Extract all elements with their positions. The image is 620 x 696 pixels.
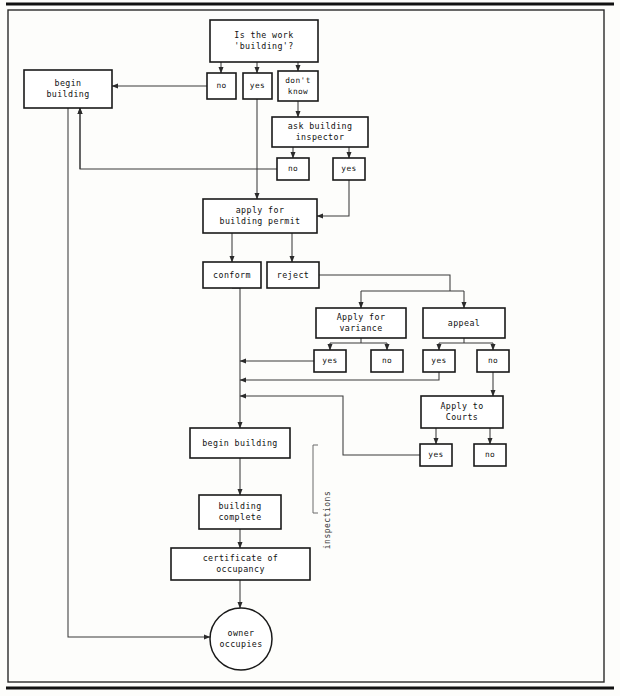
flowchart-page: Is the work'building'?beginbuildingnoyes… (0, 0, 620, 696)
node-label-line: yes (428, 450, 443, 459)
node-courts-yes[interactable]: yes (420, 444, 452, 466)
node-ask-building-inspector[interactable]: ask buildinginspector (272, 117, 368, 147)
node-label-line: no (488, 356, 498, 365)
node-variance-no[interactable]: no (371, 350, 403, 372)
connector-yes2-to-apply-permit (317, 180, 349, 216)
annotation-group: inspections (323, 491, 332, 549)
connector-conform-to-begin (232, 288, 240, 428)
node-label-line: no (382, 356, 392, 365)
node-label-line: yes (431, 356, 446, 365)
node-label-line: certificate of (203, 553, 279, 563)
connector-no2-to-begin-building (80, 108, 277, 169)
node-yes-2[interactable]: yes (333, 158, 365, 180)
node-variance-yes[interactable]: yes (314, 350, 346, 372)
node-label-line: reject (277, 270, 309, 280)
node-label-line: building (218, 501, 261, 511)
node-label-line: occupancy (216, 564, 265, 574)
node-conform[interactable]: conform (203, 262, 261, 288)
node-certificate-of-occupancy[interactable]: certificate ofoccupancy (171, 548, 310, 580)
node-owner-occupies[interactable]: owneroccupies (210, 608, 272, 670)
node-dont-know[interactable]: don'tknow (278, 71, 318, 101)
node-label-line: complete (218, 512, 261, 522)
node-no-2[interactable]: no (277, 158, 309, 180)
node-label-line: no (216, 81, 226, 90)
node-label-line: no (485, 450, 495, 459)
inspections-bracket (313, 445, 318, 513)
node-apply-for-building-permit[interactable]: apply forbuilding permit (203, 199, 317, 233)
node-is-the-work-building[interactable]: Is the work'building'? (210, 20, 318, 62)
node-label-line: apply for (236, 205, 285, 215)
flowchart-canvas: Is the work'building'?beginbuildingnoyes… (0, 0, 620, 696)
node-label-line: inspector (296, 132, 345, 142)
node-label-line: begin (55, 78, 82, 88)
node-apply-to-courts[interactable]: Apply toCourts (421, 396, 503, 428)
connector-appeal-yes-merge (240, 372, 439, 380)
node-label-line: building (46, 89, 89, 99)
node-label-line: yes (250, 81, 265, 90)
node-label-line: no (288, 164, 298, 173)
node-label-line: appeal (448, 318, 480, 328)
node-label-line: yes (322, 356, 337, 365)
node-begin-building-main[interactable]: begin building (190, 428, 290, 458)
node-label-line: Courts (446, 412, 478, 422)
connector-reject-split (319, 275, 450, 291)
node-label-line: yes (341, 164, 356, 173)
node-label-line: ask building (288, 121, 353, 131)
node-label-line: occupies (219, 639, 262, 649)
node-begin-building-top[interactable]: beginbuilding (24, 70, 112, 108)
node-label-line: know (288, 87, 308, 96)
page-border (8, 10, 604, 682)
node-label-line: variance (339, 323, 382, 333)
inspections-label: inspections (323, 491, 332, 549)
node-apply-for-variance[interactable]: Apply forvariance (316, 308, 406, 338)
node-yes-1[interactable]: yes (243, 73, 272, 99)
bracket-group (313, 445, 318, 513)
node-label-line: Is the work (234, 30, 293, 40)
node-group: Is the work'building'?beginbuildingnoyes… (24, 20, 509, 670)
node-label-line: don't (285, 76, 310, 85)
node-appeal[interactable]: appeal (423, 308, 505, 338)
node-label-line: conform (213, 270, 251, 280)
node-no-1[interactable]: no (207, 73, 236, 99)
node-appeal-no[interactable]: no (477, 350, 509, 372)
node-label-line: building permit (220, 216, 301, 226)
node-label-line: begin building (202, 438, 278, 448)
node-reject[interactable]: reject (267, 262, 319, 288)
node-building-complete[interactable]: buildingcomplete (199, 495, 281, 529)
node-label-line: 'building'? (234, 41, 293, 51)
node-courts-no[interactable]: no (474, 444, 506, 466)
node-label-line: owner (228, 628, 255, 638)
node-label-line: Apply to (440, 401, 483, 411)
node-label-line: Apply for (337, 312, 386, 322)
node-appeal-yes[interactable]: yes (423, 350, 455, 372)
